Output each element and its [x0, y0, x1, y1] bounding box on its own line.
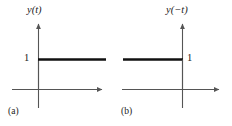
panel-a-caption: (a)	[8, 107, 19, 117]
panel-b-signal	[123, 60, 183, 90]
panel-a-tick-label-one: 1	[24, 53, 29, 64]
panel-a-y-axis-label: y(t)	[27, 5, 42, 16]
panel-b-axes	[122, 24, 219, 108]
panel-a-signal	[38, 60, 106, 90]
panel-a-axes	[12, 24, 102, 108]
panel-b-tick-label-one: 1	[187, 53, 192, 64]
panel-b-caption: (b)	[121, 107, 132, 117]
figure-container: y(t) 1 (a) y(−t) 1 (b)	[0, 0, 232, 126]
panel-b-y-axis-label: y(−t)	[166, 5, 188, 16]
figure-svg	[0, 0, 232, 126]
